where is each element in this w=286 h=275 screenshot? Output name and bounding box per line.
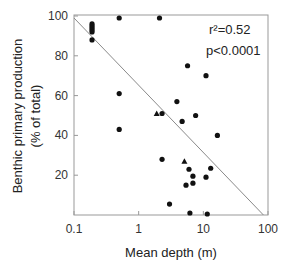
- circle-marker: [174, 99, 179, 104]
- y-tick-label: 20: [55, 168, 69, 182]
- y-tick-label: 60: [55, 89, 69, 103]
- circle-marker: [117, 91, 122, 96]
- circle-marker: [159, 111, 164, 116]
- circle-marker: [167, 201, 172, 206]
- circle-marker: [186, 167, 191, 172]
- circle-marker: [208, 166, 213, 171]
- y-tick-label: 100: [48, 9, 68, 23]
- circle-marker: [187, 210, 192, 215]
- circle-marker: [215, 133, 220, 138]
- circle-marker: [117, 15, 122, 20]
- y-tick-label: 80: [55, 49, 69, 63]
- circle-marker: [205, 211, 210, 216]
- circle-marker: [190, 181, 195, 186]
- circle-marker: [157, 15, 162, 20]
- p-value-annotation: p<0.0001: [206, 43, 261, 58]
- y-axis-title: Benthic primary production: [10, 39, 25, 194]
- x-tick-label: 10: [197, 222, 211, 236]
- circle-marker: [203, 73, 208, 78]
- x-axis-title: Mean depth (m): [125, 245, 217, 260]
- x-tick-label: 100: [258, 222, 278, 236]
- r-squared-annotation: r²=0.52: [209, 22, 251, 37]
- y-axis-title-unit: (% of total): [28, 85, 43, 148]
- x-tick-label: 1: [135, 222, 142, 236]
- circle-marker: [185, 63, 190, 68]
- scatter-chart: 0.111010020406080100 r²=0.52 p<0.0001 Me…: [0, 0, 286, 275]
- circle-marker: [183, 183, 188, 188]
- circle-marker: [117, 127, 122, 132]
- circle-marker: [180, 119, 185, 124]
- x-tick-label: 0.1: [66, 222, 83, 236]
- data-points: [89, 15, 220, 216]
- circle-marker: [193, 113, 198, 118]
- circle-marker: [203, 175, 208, 180]
- triangle-marker: [181, 158, 187, 164]
- circle-marker: [89, 37, 94, 42]
- circle-marker: [190, 174, 195, 179]
- y-tick-label: 40: [55, 128, 69, 142]
- circle-marker: [159, 157, 164, 162]
- triangle-marker: [154, 111, 160, 117]
- circle-marker: [89, 29, 94, 34]
